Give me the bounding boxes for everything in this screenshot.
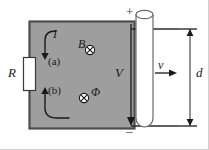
- voltage-label: V: [115, 66, 123, 79]
- field-label: B: [78, 38, 85, 50]
- velocity-arrow-head: [169, 69, 177, 76]
- flux-marker-icon: [79, 93, 88, 102]
- diagram-canvas: [0, 0, 209, 150]
- dimension-arrow-bottom: [187, 119, 194, 126]
- positive-terminal-label: +: [126, 5, 133, 18]
- resistor-label: R: [8, 66, 16, 79]
- negative-terminal-label: –: [126, 124, 133, 137]
- physics-diagram: R I (a) (b) B Φ V v d + –: [0, 0, 209, 150]
- separation-label: d: [196, 66, 203, 79]
- velocity-label: v: [158, 59, 163, 71]
- resistor-body: [24, 58, 36, 91]
- flux-label: Φ: [91, 86, 100, 98]
- field-marker-icon: [85, 45, 94, 54]
- point-a-label: (a): [48, 56, 60, 67]
- dimension-arrow-top: [187, 29, 194, 36]
- sliding-rod: [136, 10, 153, 127]
- point-b-label: (b): [48, 85, 61, 96]
- current-label: I: [53, 28, 57, 40]
